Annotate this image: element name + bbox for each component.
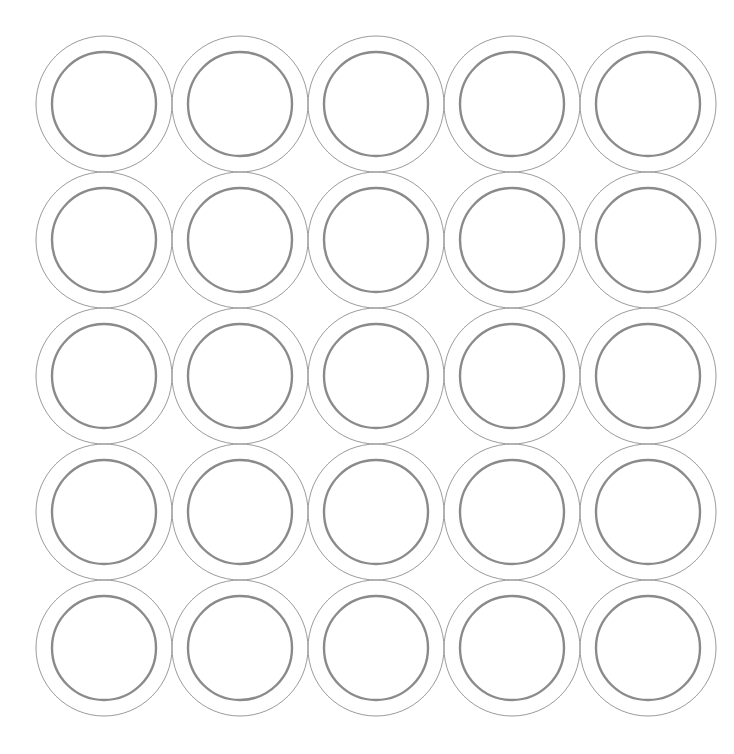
figure-canvas bbox=[0, 0, 734, 754]
concentric-circle-grid bbox=[0, 0, 734, 754]
figure-background bbox=[0, 0, 734, 754]
